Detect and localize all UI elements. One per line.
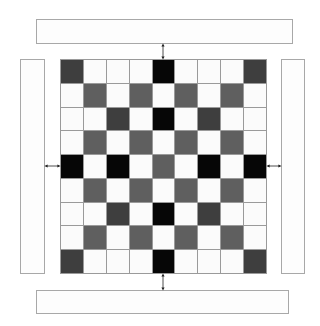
grid-cell [84,108,106,131]
grid-cell [244,226,266,249]
grid-cell [153,250,175,273]
grid-cell [244,108,266,131]
grid-cell [221,131,243,154]
grid-cell [84,203,106,226]
grid-cell [107,250,129,273]
grid-cell [244,60,266,83]
grid-cell [107,108,129,131]
grid-cell [61,108,83,131]
grid-cell [107,226,129,249]
grid-cell [61,60,83,83]
grid-cell [61,226,83,249]
grid-cell [175,226,197,249]
grid-cell [84,179,106,202]
grid-cell [84,131,106,154]
grid-cell [84,250,106,273]
grid-cell [107,203,129,226]
grid-cell [130,108,152,131]
grid-cell [175,179,197,202]
grid-cell [153,60,175,83]
grid-cell [130,250,152,273]
grid-cell [244,131,266,154]
grid-cell [61,131,83,154]
grid-cell [61,155,83,178]
grid-cell [198,226,220,249]
grid-cell [244,155,266,178]
grid-cell [153,155,175,178]
grid-cell [221,155,243,178]
grid-cell [130,84,152,107]
grid-cell [221,108,243,131]
grid-cell [175,60,197,83]
grid-cell [130,60,152,83]
grid-cell [175,155,197,178]
grid-cell [130,131,152,154]
grid-cell [175,84,197,107]
grid-cell [153,84,175,107]
top-panel [36,19,293,44]
grid-cell [84,155,106,178]
grid-cell [221,226,243,249]
grid-cell [84,226,106,249]
grid-cell [107,179,129,202]
grid-cell [198,203,220,226]
grid-cell [107,84,129,107]
grid-cell [198,84,220,107]
grid-cell [198,155,220,178]
grid-cell [198,108,220,131]
grid-cell [244,250,266,273]
grid-cell [244,84,266,107]
grid-cell [130,226,152,249]
grid-cell [153,108,175,131]
grid-cell [130,179,152,202]
grid-cell [175,250,197,273]
grid-cell [244,179,266,202]
grid-cell [175,108,197,131]
grid-cell [221,179,243,202]
grid-cell [221,84,243,107]
grid-cell [130,203,152,226]
grid-cell [175,203,197,226]
grid-cell [61,250,83,273]
grid-cell [153,226,175,249]
left-panel [20,59,45,274]
grid-cell [153,203,175,226]
grid-cell [221,250,243,273]
grid-cell [61,84,83,107]
grid-cell [198,250,220,273]
grid-cell [61,203,83,226]
grid-cell [198,179,220,202]
grid-cell [244,203,266,226]
grid-cell [61,179,83,202]
grid-cell [153,179,175,202]
grid-cell [107,131,129,154]
grid-cell [107,155,129,178]
bottom-panel [36,290,289,314]
grid-cell [153,131,175,154]
grid-cell [198,60,220,83]
right-panel [281,59,305,274]
grid-cell [107,60,129,83]
grid-cell [198,131,220,154]
grid-cell [221,60,243,83]
grid-cell [84,84,106,107]
grid-cell [84,60,106,83]
grid-cell [130,155,152,178]
grid-cell [221,203,243,226]
grid-cell [175,131,197,154]
checker-grid [60,59,267,274]
